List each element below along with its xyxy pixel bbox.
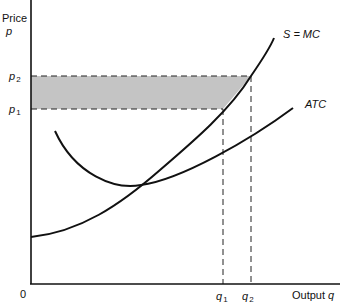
atc-curve-label: ATC	[305, 98, 326, 110]
shaded-area	[31, 76, 251, 109]
p1-label: p1	[9, 103, 21, 119]
x-axis-label: Output q	[292, 289, 334, 301]
mc-curve	[31, 38, 274, 237]
cost-curves-diagram	[0, 0, 340, 308]
p2-label: p2	[9, 70, 21, 86]
y-axis-label: Price	[2, 12, 27, 24]
mc-curve-label: S = MC	[283, 28, 320, 40]
q2-label: q2	[242, 290, 254, 306]
q1-label: q1	[216, 290, 228, 306]
origin-label: 0	[20, 288, 26, 300]
atc-curve	[55, 108, 293, 186]
y-axis-symbol: p	[6, 25, 12, 37]
